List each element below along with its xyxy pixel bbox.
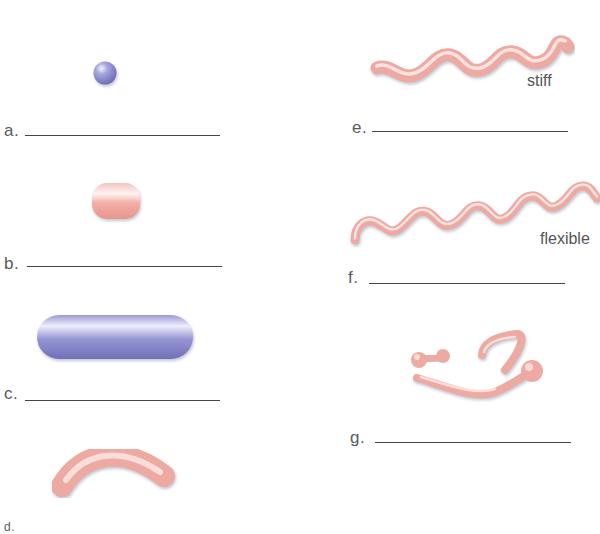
rod-shape-c [34, 312, 200, 366]
answer-line-a[interactable] [25, 135, 220, 136]
pleomorphic-shape-g [405, 328, 545, 408]
short-rod-shape-b [88, 180, 144, 224]
item-label-c: c. [4, 384, 18, 404]
sphere-shape-a [90, 58, 122, 92]
item-label-b: b. [4, 254, 19, 274]
answer-line-f[interactable] [369, 283, 565, 284]
flexible-note: flexible [540, 230, 590, 248]
stiff-note: stiff [527, 72, 552, 90]
answer-line-b[interactable] [27, 266, 222, 267]
answer-line-c[interactable] [25, 400, 220, 401]
item-label-e: e. [352, 118, 367, 138]
curved-rod-shape-d [52, 438, 182, 498]
answer-line-g[interactable] [375, 442, 571, 443]
item-label-a: a. [4, 121, 19, 141]
item-label-g: g. [350, 428, 365, 448]
cut-off-heading [0, 0, 600, 6]
item-label-d: d. [4, 520, 15, 534]
item-label-f: f. [348, 268, 358, 288]
answer-line-e[interactable] [372, 131, 568, 132]
